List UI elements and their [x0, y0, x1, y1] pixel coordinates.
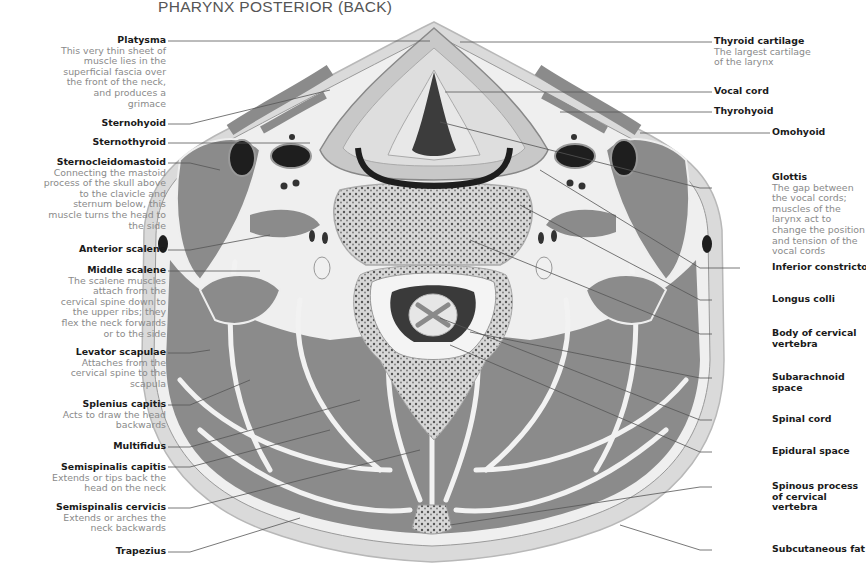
label-multifidus: Multifidus [0, 441, 166, 452]
label-subarachnoid-space: Subarachnoid space [772, 372, 866, 393]
label-subcutaneous-fat: Subcutaneous fat [772, 544, 866, 555]
spinous-process [412, 505, 452, 534]
label-longus-colli: Longus colli [772, 294, 866, 305]
label-trapezius: Trapezius [0, 546, 166, 557]
label-semispinalis-capitis: Semispinalis capitis Extends or tips bac… [0, 462, 166, 494]
label-platysma: Platysma This very thin sheet of muscle … [0, 35, 166, 109]
label-levator-scapulae: Levator scapulae Attaches from the cervi… [0, 347, 166, 389]
label-body-of-cervical-vertebra: Body of cervical vertebra [772, 328, 866, 349]
label-splenius-capitis: Splenius capitis Acts to draw the head b… [0, 399, 166, 431]
label-inferior-constrictor: Inferior constrictor [772, 262, 866, 273]
label-epidural-space: Epidural space [772, 446, 866, 457]
label-middle-scalene: Middle scalene The scalene muscles attac… [0, 265, 166, 339]
label-anterior-scalene: Anterior scalene [0, 244, 166, 255]
label-vocal-cord: Vocal cord [714, 86, 864, 97]
label-sternohyoid: Sternohyoid [0, 118, 166, 129]
label-thyrohyoid: Thyrohyoid [714, 106, 864, 117]
label-sternothyroid: Sternothyroid [0, 137, 166, 148]
label-spinal-cord: Spinal cord [772, 414, 866, 425]
label-thyroid-cartilage: Thyroid cartilage The largest cartilage … [714, 36, 864, 68]
label-semispinalis-cervicis: Semispinalis cervicis Extends or arches … [0, 502, 166, 534]
label-sternocleidomastoid: Sternocleidomastoid Connecting the masto… [0, 157, 166, 231]
label-glottis: Glottis The gap between the vocal cords;… [772, 172, 866, 257]
label-spinous-process: Spinous process of cervical vertebra [772, 481, 866, 513]
label-omohyoid: Omohyoid [772, 127, 866, 138]
vertebral-body [334, 183, 532, 266]
